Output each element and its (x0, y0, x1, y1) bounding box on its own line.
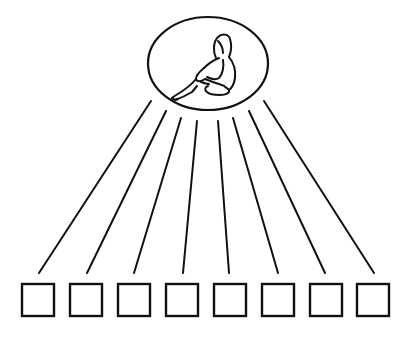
connector-line-1 (39, 101, 151, 273)
diagram-canvas (0, 0, 411, 338)
connector-line-4 (183, 121, 197, 273)
child-node-square-2 (70, 284, 102, 316)
child-nodes (22, 284, 389, 316)
child-node-square-1 (22, 284, 54, 316)
child-node-square-8 (357, 284, 389, 316)
child-node-square-7 (310, 284, 342, 316)
seated-person-icon (172, 35, 235, 100)
connector-line-5 (218, 121, 229, 273)
connector-line-2 (87, 111, 166, 273)
connector-line-8 (264, 101, 374, 273)
child-node-square-6 (262, 284, 294, 316)
one-to-many-diagram (0, 0, 411, 338)
child-node-square-3 (118, 284, 150, 316)
child-node-square-4 (166, 284, 198, 316)
child-node-square-5 (214, 284, 246, 316)
connector-line-3 (134, 118, 181, 273)
connector-line-6 (233, 118, 278, 273)
connector-lines (39, 101, 374, 273)
